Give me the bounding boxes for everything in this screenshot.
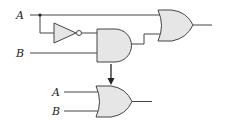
wire-a-to-not: [40, 15, 54, 33]
not-bubble: [77, 31, 82, 36]
not-gate: [54, 23, 76, 43]
logic-diagram: A B A B: [0, 0, 225, 123]
junction-dot: [38, 13, 41, 16]
or-gate-bottom: [96, 86, 132, 117]
label-a-top: A: [15, 9, 24, 22]
label-b-bottom: B: [51, 105, 60, 118]
and-gate: [97, 29, 132, 62]
label-a-bottom: A: [51, 86, 60, 99]
or-gate-top: [158, 10, 193, 41]
arrow-down-icon: [108, 78, 115, 85]
wire-and-to-or: [132, 34, 162, 44]
label-b-top: B: [15, 47, 24, 60]
